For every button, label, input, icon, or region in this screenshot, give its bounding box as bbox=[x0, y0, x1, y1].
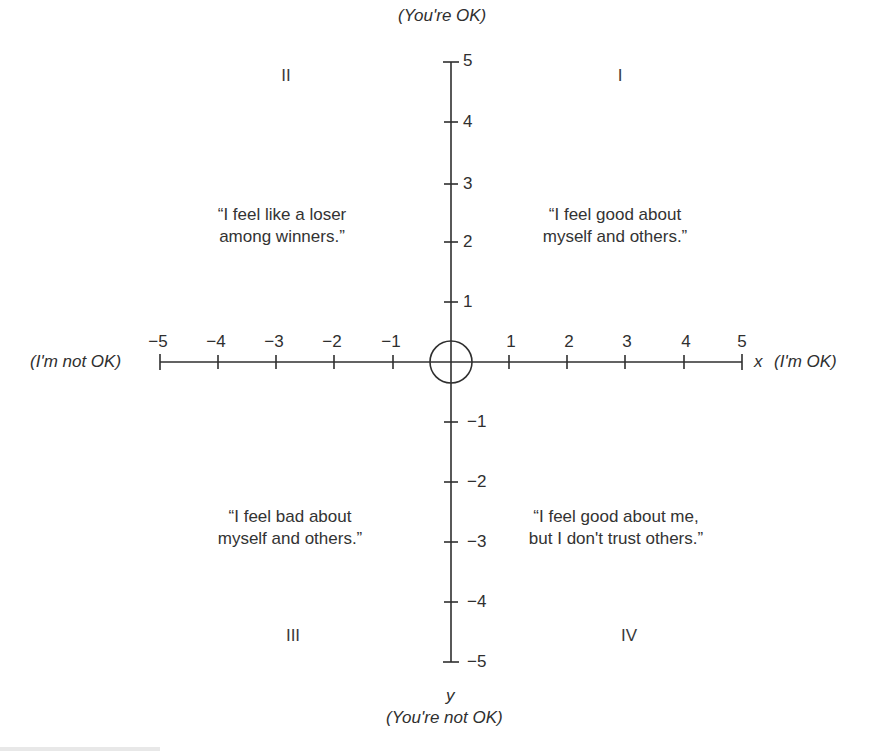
quote-line: “I feel like a loser bbox=[162, 204, 402, 226]
quote-line: but I don't trust others.” bbox=[496, 528, 736, 550]
quadrant-diagram: (You're OK) (You're not OK) y (I'm not O… bbox=[0, 0, 874, 751]
quote-line: “I feel good about me, bbox=[496, 506, 736, 528]
x-tick-label: −1 bbox=[371, 332, 411, 352]
y-tick-label: 4 bbox=[463, 112, 472, 132]
y-tick-label: −4 bbox=[467, 592, 486, 612]
x-tick-label: 1 bbox=[491, 332, 531, 352]
x-tick-label: −5 bbox=[138, 332, 178, 352]
x-tick-label: 2 bbox=[549, 332, 589, 352]
x-axis-positive-label: (I'm OK) bbox=[774, 352, 837, 372]
x-tick-label: 5 bbox=[722, 332, 762, 352]
x-tick-label: −4 bbox=[196, 332, 236, 352]
axes-graphic bbox=[0, 0, 874, 751]
y-tick-label: −3 bbox=[467, 532, 486, 552]
quadrant-ii-quote: “I feel like a loser among winners.” bbox=[162, 204, 402, 248]
y-axis-name: y bbox=[446, 686, 455, 706]
y-tick-label: −5 bbox=[467, 652, 486, 672]
x-axis-negative-label: (I'm not OK) bbox=[30, 352, 121, 372]
x-tick-label: −3 bbox=[254, 332, 294, 352]
quadrant-ii-numeral: II bbox=[266, 66, 306, 86]
y-axis-negative-label: (You're not OK) bbox=[386, 708, 503, 728]
quadrant-iv-numeral: IV bbox=[609, 626, 649, 646]
y-axis-positive-label: (You're OK) bbox=[398, 6, 486, 26]
y-tick-label: 5 bbox=[463, 51, 472, 71]
quote-line: myself and others.” bbox=[495, 226, 735, 248]
quadrant-iii-quote: “I feel bad about myself and others.” bbox=[170, 506, 410, 550]
quadrant-i-numeral: I bbox=[600, 66, 640, 86]
x-tick-label: 3 bbox=[607, 332, 647, 352]
quote-line: among winners.” bbox=[162, 226, 402, 248]
y-tick-label: 3 bbox=[463, 174, 472, 194]
quadrant-iv-quote: “I feel good about me, but I don't trust… bbox=[496, 506, 736, 550]
quadrant-iii-numeral: III bbox=[273, 626, 313, 646]
caption-edge-divider bbox=[0, 747, 160, 751]
x-axis-name: x bbox=[754, 352, 763, 372]
x-tick-label: −2 bbox=[312, 332, 352, 352]
y-tick-label: −1 bbox=[467, 412, 486, 432]
quote-line: “I feel bad about bbox=[170, 506, 410, 528]
x-tick-label: 4 bbox=[666, 332, 706, 352]
y-tick-label: 2 bbox=[463, 232, 472, 252]
y-tick-label: −2 bbox=[467, 472, 486, 492]
quote-line: myself and others.” bbox=[170, 528, 410, 550]
quadrant-i-quote: “I feel good about myself and others.” bbox=[495, 204, 735, 248]
y-tick-label: 1 bbox=[463, 292, 472, 312]
quote-line: “I feel good about bbox=[495, 204, 735, 226]
